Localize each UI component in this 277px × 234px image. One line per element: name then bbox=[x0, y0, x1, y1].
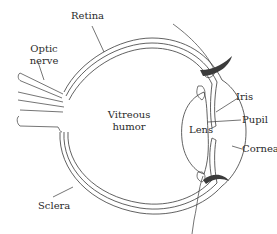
label-pupil: Pupil bbox=[242, 114, 268, 125]
label-vitreous-humor-line2: humor bbox=[106, 121, 152, 132]
upper-eyelash bbox=[200, 56, 232, 76]
label-lens: Lens bbox=[189, 124, 213, 135]
eye-diagram: Retina Optic nerve Vitreous humor Lens I… bbox=[0, 0, 277, 234]
label-optic-nerve-line2: nerve bbox=[29, 55, 59, 66]
label-vitreous-humor-line1: Vitreous bbox=[106, 109, 152, 120]
optic-nerve bbox=[17, 73, 64, 132]
label-cornea: Cornea bbox=[242, 143, 277, 154]
label-sclera: Sclera bbox=[38, 200, 70, 211]
label-iris: Iris bbox=[236, 91, 253, 102]
label-retina: Retina bbox=[71, 10, 104, 21]
label-optic-nerve-line1: Optic bbox=[29, 43, 59, 54]
